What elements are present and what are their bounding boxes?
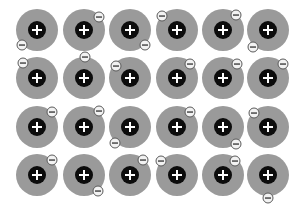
electron [263, 193, 273, 203]
minus-icon [82, 56, 88, 57]
minus-icon [251, 112, 257, 113]
electron [232, 59, 242, 69]
electron [17, 40, 27, 50]
electron [80, 52, 90, 62]
electron [248, 42, 258, 52]
minus-icon [233, 14, 239, 15]
minus-icon [140, 159, 146, 160]
positive-ion [63, 57, 105, 99]
minus-icon [96, 110, 102, 111]
minus-icon [95, 190, 101, 191]
positive-ion [247, 154, 289, 196]
electron [47, 155, 57, 165]
minus-icon [234, 63, 240, 64]
minus-icon [265, 197, 271, 198]
lattice-canvas [0, 0, 306, 210]
minus-icon [187, 111, 193, 112]
electron [94, 12, 104, 22]
electron [185, 59, 195, 69]
minus-icon [158, 160, 164, 161]
minus-icon [280, 63, 286, 64]
minus-icon [142, 44, 148, 45]
electron [110, 138, 120, 148]
minus-icon [233, 143, 239, 144]
electron [156, 156, 166, 166]
electron [185, 107, 195, 117]
electron [94, 106, 104, 116]
electron [231, 10, 241, 20]
minus-icon [49, 159, 55, 160]
electron [93, 186, 103, 196]
electron [249, 108, 259, 118]
electron [47, 107, 57, 117]
minus-icon [112, 142, 118, 143]
metallic-lattice-diagram [0, 0, 306, 210]
electron [140, 40, 150, 50]
electron [278, 59, 288, 69]
electron [138, 155, 148, 165]
minus-icon [232, 160, 238, 161]
minus-icon [96, 16, 102, 17]
minus-icon [20, 62, 26, 63]
electron [157, 11, 167, 21]
electron [18, 58, 28, 68]
minus-icon [19, 44, 25, 45]
minus-icon [187, 63, 193, 64]
electron [231, 139, 241, 149]
minus-icon [250, 46, 256, 47]
minus-icon [49, 111, 55, 112]
electron [230, 156, 240, 166]
electron [111, 61, 121, 71]
minus-icon [113, 65, 119, 66]
minus-icon [159, 15, 165, 16]
